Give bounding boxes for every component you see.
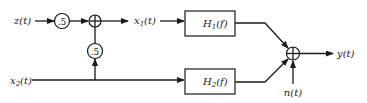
block-h2: H2(f) xyxy=(185,69,235,94)
block-h1: H1(f) xyxy=(185,11,235,36)
output-y-label: y(t) xyxy=(336,48,355,59)
block-diagram: z(t) .5 x1(t) H1(f) x2(t) .5 H2(f) xyxy=(0,0,367,103)
summing-junction-1 xyxy=(89,15,101,27)
gain-node-x2: .5 xyxy=(88,44,103,59)
intermediate-x1-label: x1(t) xyxy=(134,15,156,28)
arrow-h1-to-output-summer xyxy=(235,23,288,48)
input-x2-label: x2(t) xyxy=(10,75,32,88)
arrow-h2-to-output-summer xyxy=(235,59,288,82)
gain-z-label: .5 xyxy=(58,17,67,27)
summing-junction-output xyxy=(287,47,300,60)
input-z-label: z(t) xyxy=(13,15,31,26)
gain-x2-label: .5 xyxy=(91,47,100,57)
gain-node-z: .5 xyxy=(55,14,70,29)
noise-label: n(t) xyxy=(284,87,302,98)
